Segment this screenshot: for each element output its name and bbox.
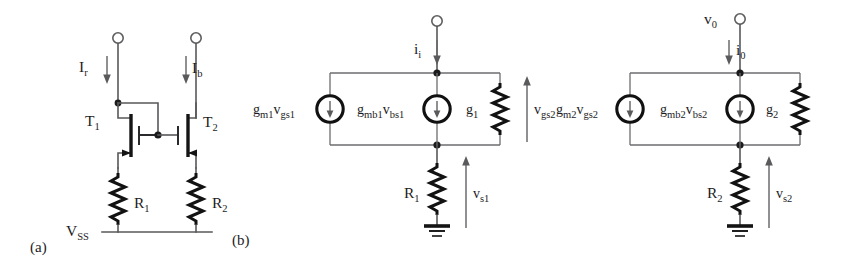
label-vs1: vs1 — [473, 186, 489, 204]
panel-label-a: (a) — [30, 239, 47, 256]
current-arrow-ib — [182, 56, 190, 84]
label-t1: T1 — [85, 112, 100, 132]
label-gmb1vbs1: gmb1vbs1 — [357, 102, 404, 120]
transistor-t1 — [118, 103, 158, 168]
label-gmb2vbs2: gmb2vbs2 — [660, 102, 707, 120]
label-vgs2: vgs2 — [534, 102, 556, 120]
label-vs2: vs2 — [776, 186, 792, 204]
current-arrow-ii — [433, 40, 441, 65]
resistor-r1-b1 — [430, 145, 444, 226]
label-r2-a: R2 — [212, 194, 228, 214]
current-source-gmb2vbs2 — [727, 73, 753, 145]
label-vss: VSS — [66, 222, 89, 242]
label-r1-a: R1 — [134, 194, 150, 214]
panel-b-circuit-1: ii gm1vgs1 gmb1vbs1 — [232, 16, 556, 249]
panel-b-circuit-2: v0 i0 gm2vgs2 — [556, 10, 807, 236]
label-t2: T2 — [203, 113, 218, 133]
terminal-left-a — [113, 33, 123, 43]
terminal-input-b1 — [432, 16, 442, 26]
ground-symbol-b1 — [424, 226, 450, 236]
panel-a: Ir T1 — [30, 33, 228, 256]
label-ir: Ir — [79, 58, 88, 78]
resistor-r2-a — [189, 168, 203, 232]
circuit-diagram: Ir T1 — [0, 0, 847, 261]
label-gm1vgs1: gm1vgs1 — [253, 102, 295, 120]
resistor-g2-b2 — [793, 83, 807, 135]
current-source-gmb1vbs1 — [424, 73, 450, 145]
current-source-gm2vgs2 — [617, 96, 643, 122]
current-source-gm1vgs1 — [317, 96, 343, 122]
label-g1: g1 — [466, 102, 478, 120]
current-arrow-i0 — [725, 40, 733, 65]
voltage-arrow-vs1 — [462, 156, 470, 228]
voltage-arrow-vgs2 — [523, 76, 531, 142]
panel-label-b: (b) — [232, 232, 250, 249]
current-arrow-ir — [103, 56, 111, 84]
terminal-output-b2 — [735, 14, 745, 24]
label-ib: Ib — [192, 59, 202, 79]
transistor-t2 — [178, 103, 197, 168]
ground-symbol-b2 — [727, 226, 753, 236]
resistor-g1-b1 — [493, 83, 507, 135]
label-r2-b2: R2 — [707, 184, 723, 204]
voltage-arrow-vs2 — [765, 156, 773, 228]
resistor-r2-b2 — [733, 145, 747, 226]
terminal-right-a — [191, 33, 201, 43]
label-ii: ii — [414, 40, 421, 60]
label-gm2vgs2: gm2vgs2 — [556, 102, 598, 120]
resistor-r1-a — [111, 168, 125, 232]
figure-root: Ir T1 — [0, 0, 847, 261]
label-g2: g2 — [766, 102, 778, 120]
label-v0: v0 — [704, 10, 717, 30]
label-r1-b1: R1 — [404, 184, 420, 204]
